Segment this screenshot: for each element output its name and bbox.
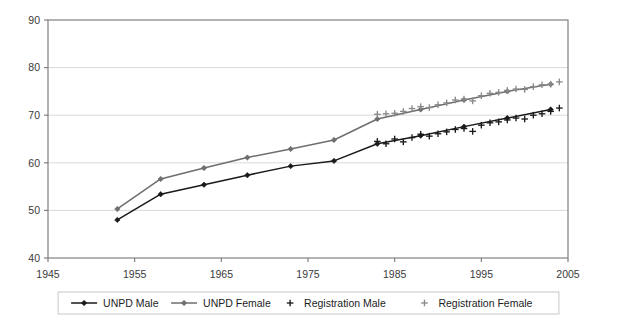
datapoint-registration-female [513,86,520,93]
y-axis-tick-label: 60 [28,157,40,169]
datapoint-unpd-male [245,172,250,177]
datapoint-registration-female [426,104,433,111]
datapoint-registration-female [495,89,502,96]
datapoint-registration-male [521,116,528,123]
y-axis-tick-label: 80 [28,61,40,73]
datapoint-registration-female [530,83,537,90]
line-chart: 4050607080901945195519651975198519952005… [0,0,617,329]
datapoint-registration-female [374,111,381,118]
datapoint-registration-female [547,81,554,88]
datapoint-registration-female [443,100,450,107]
plot-area-border [48,20,568,258]
legend-label: Registration Female [438,297,532,309]
x-axis-tick-label: 1985 [383,268,407,280]
series-line-unpd-female [117,84,550,209]
datapoint-registration-male [452,126,459,133]
chart-container: 4050607080901945195519651975198519952005… [0,0,617,329]
datapoint-unpd-male [201,182,206,187]
datapoint-registration-female [539,81,546,88]
legend-label: UNPD Female [203,297,271,309]
x-axis-tick-label: 1955 [123,268,147,280]
datapoint-registration-female [435,101,442,108]
x-axis-tick-label: 1945 [36,268,60,280]
x-axis-tick-label: 1995 [470,268,494,280]
legend-label: Registration Male [304,297,386,309]
x-axis-tick-label: 1965 [210,268,234,280]
datapoint-registration-female [556,79,563,86]
datapoint-registration-male [409,134,416,141]
datapoint-registration-male [556,105,563,112]
series-line-unpd-male [117,109,550,219]
datapoint-registration-female [504,87,511,94]
datapoint-registration-male [469,128,476,135]
legend-label: UNPD Male [103,297,159,309]
datapoint-unpd-female [201,165,206,170]
datapoint-registration-female [461,96,468,103]
y-axis-tick-label: 40 [28,252,40,264]
datapoint-unpd-female [245,155,250,160]
datapoint-registration-female [478,92,485,99]
x-axis-tick-label: 1975 [296,268,320,280]
datapoint-unpd-female [331,137,336,142]
datapoint-unpd-male [288,163,293,168]
datapoint-unpd-female [288,146,293,151]
y-axis-tick-label: 70 [28,109,40,121]
datapoint-registration-female [521,86,528,93]
x-axis-tick-label: 2005 [556,268,580,280]
y-axis-tick-label: 50 [28,204,40,216]
y-axis-tick-label: 90 [28,14,40,26]
